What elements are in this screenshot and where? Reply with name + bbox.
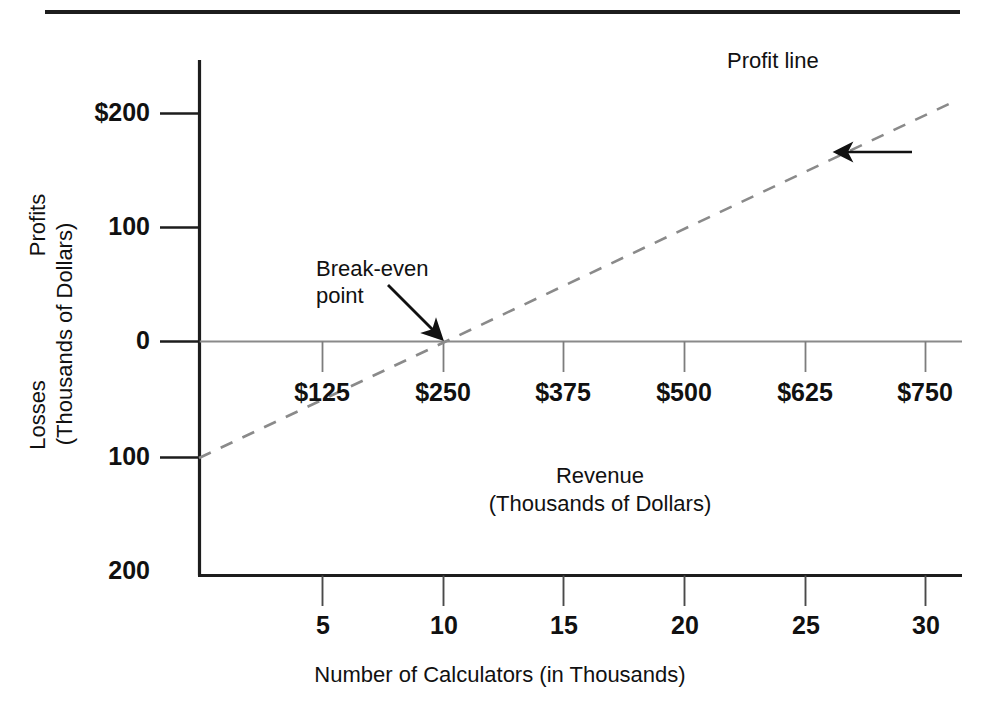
y-axis-title-profits: Profits <box>25 160 51 290</box>
annotation-break-even-line2: point <box>316 283 364 309</box>
revenue-tick-label-250: $250 <box>383 378 503 408</box>
annotation-break-even-line1: Break-even <box>316 256 429 282</box>
revenue-axis-title-line2: (Thousands of Dollars) <box>430 491 770 517</box>
chart-figure: $200 100 0 100 200 Profits Losses (Thous… <box>0 0 985 717</box>
revenue-axis-title-line1: Revenue <box>430 463 770 489</box>
x-axis-title: Number of Calculators (in Thousands) <box>230 662 770 688</box>
y-axis-title-losses: Losses <box>25 350 51 480</box>
x-tick-label-25: 25 <box>746 611 866 641</box>
revenue-tick-label-125: $125 <box>262 378 382 408</box>
y-tick-label-200: $200 <box>55 98 150 128</box>
revenue-tick-label-500: $500 <box>624 378 744 408</box>
revenue-tick-label-750: $750 <box>865 378 985 408</box>
x-tick-label-10: 10 <box>384 611 504 641</box>
revenue-tick-label-375: $375 <box>503 378 623 408</box>
x-tick-label-30: 30 <box>866 611 985 641</box>
x-tick-label-20: 20 <box>625 611 745 641</box>
annotation-profit-line: Profit line <box>727 48 819 74</box>
break-even-arrow <box>388 285 436 333</box>
y-axis-title-units: (Thousands of Dollars) <box>52 179 78 489</box>
y-tick-label-neg200: 200 <box>55 556 150 586</box>
x-tick-label-15: 15 <box>504 611 624 641</box>
revenue-tick-label-625: $625 <box>745 378 865 408</box>
x-tick-label-5: 5 <box>263 611 383 641</box>
